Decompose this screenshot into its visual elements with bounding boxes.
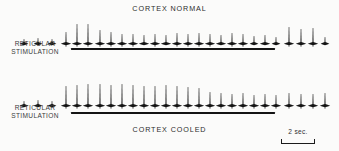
spike-foot (272, 42, 281, 45)
spike (150, 34, 160, 47)
spike-tail (100, 107, 101, 109)
spike-shaft (99, 84, 100, 106)
reticular-stimulation-label-normal: RETICULAR STIMULATION (2, 40, 68, 56)
spike (183, 34, 193, 47)
spike (296, 29, 306, 47)
spike-tail (276, 107, 277, 109)
spike-tail (77, 107, 78, 109)
spike-tail (188, 107, 189, 109)
spike (139, 35, 149, 45)
spike (250, 36, 259, 45)
time-scale-bracket (281, 138, 315, 144)
spike (308, 28, 318, 47)
spike (139, 86, 149, 109)
spike-tail (313, 45, 314, 47)
spike-tail (210, 107, 211, 109)
spike-shaft (76, 24, 77, 44)
spike-tail (177, 107, 178, 109)
spike-tail (111, 107, 112, 109)
neurophysiology-figure: CORTEX NORMAL RETICULAR STIMULATION CORT… (0, 0, 339, 151)
spike-tail (133, 107, 134, 109)
spike (205, 92, 215, 109)
spike (227, 33, 237, 47)
spike (260, 35, 270, 45)
spike-tail (144, 107, 145, 109)
spike-tail (199, 45, 200, 47)
spike-shaft (312, 28, 313, 44)
stim-label-line2-cooled: STIMULATION (2, 112, 68, 120)
spike-tail (133, 45, 134, 47)
spike-shaft (65, 86, 66, 106)
stim-label-line1-normal: RETICULAR (2, 40, 68, 48)
spike (161, 35, 171, 45)
spike (194, 88, 204, 109)
spike (271, 95, 281, 109)
spike (172, 33, 182, 47)
spike-foot (161, 42, 171, 45)
spike-shaft (110, 85, 111, 106)
panel-title-cortex-normal: CORTEX NORMAL (0, 4, 339, 13)
spike (72, 24, 82, 47)
spike-tail (243, 107, 244, 109)
spike-tail (313, 107, 314, 109)
spike-shaft (154, 86, 155, 106)
spike-tail (111, 45, 112, 47)
spike-tail (210, 45, 211, 47)
spike-tail (155, 107, 156, 109)
spike-shaft (87, 24, 88, 44)
spike-foot (250, 42, 259, 45)
spike-tail (88, 45, 89, 47)
reticular-stimulation-label-cooled: RETICULAR STIMULATION (2, 104, 68, 120)
spike-tail (232, 45, 233, 47)
spike (308, 94, 318, 109)
spike-shaft (198, 88, 199, 106)
spike-tail (122, 107, 123, 109)
spike (194, 33, 204, 47)
spike-tail (199, 107, 200, 109)
stim-label-line1-cooled: RETICULAR (2, 104, 68, 112)
spike (216, 35, 226, 45)
spike (296, 94, 306, 109)
spike-tail (232, 107, 233, 109)
spike-tail (177, 45, 178, 47)
spike (260, 94, 270, 109)
spike-tail (100, 45, 101, 47)
spike-tail (289, 45, 290, 47)
spike (128, 85, 138, 109)
time-scale-bar: 2 sec. (280, 128, 324, 144)
spike (216, 93, 226, 109)
spike-tail (265, 107, 266, 109)
spike-tail (77, 45, 78, 47)
spike-shaft (76, 85, 77, 106)
spike-tail (166, 107, 167, 109)
spike (150, 86, 160, 109)
spike-shaft (87, 84, 88, 106)
spike-shaft (288, 27, 289, 44)
spike (83, 84, 93, 109)
spike-shaft (143, 86, 144, 106)
spike-foot (216, 42, 226, 45)
spike-tail (325, 107, 326, 109)
time-scale-label: 2 sec. (281, 128, 315, 135)
spike-tail (188, 45, 189, 47)
spike-tail (289, 107, 290, 109)
spike-foot (321, 42, 330, 45)
scale-tick-right (314, 139, 315, 144)
stim-label-line2-normal: STIMULATION (2, 48, 68, 56)
spike (128, 34, 138, 47)
spike-shaft (176, 86, 177, 106)
spike (183, 87, 193, 109)
spike (238, 34, 248, 47)
spike (95, 30, 105, 47)
spike (72, 85, 82, 109)
spike-tail (243, 45, 244, 47)
spike-shaft (121, 84, 122, 106)
spike (161, 85, 171, 109)
spike-shaft (165, 85, 166, 106)
scale-baseline (281, 143, 315, 144)
spike (172, 86, 182, 109)
spike-tail (88, 107, 89, 109)
spike (227, 94, 237, 109)
spike-tail (301, 107, 302, 109)
spike-foot (139, 42, 149, 45)
